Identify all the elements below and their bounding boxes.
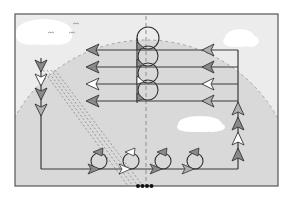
dot-icon xyxy=(141,184,145,188)
dot-icon xyxy=(150,184,154,188)
cloud-left xyxy=(16,19,72,45)
diagram-canvas xyxy=(0,0,293,201)
drill-diagram xyxy=(0,0,293,201)
dot-icon xyxy=(136,184,140,188)
dot-icon xyxy=(145,184,149,188)
